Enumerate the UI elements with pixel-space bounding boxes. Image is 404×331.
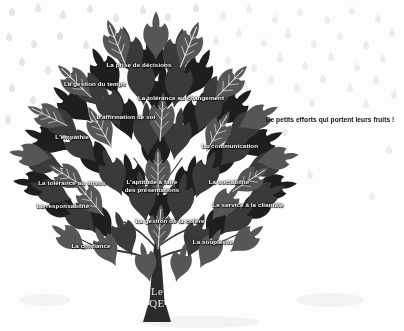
skill-label-affirmation-de-soi: L'affirmation de soi (97, 113, 156, 120)
skill-label-confiance: La confiance (71, 242, 110, 249)
tagline: De petits efforts qui portent leurs frui… (266, 116, 395, 123)
skill-label-gestion-du-temps: La gestion du temps (64, 80, 126, 87)
trunk-label: Le QE (149, 286, 164, 310)
skill-label-communication: La communication (202, 142, 258, 149)
skill-label-prise-de-decisions: La prise de décisions (106, 61, 171, 68)
skill-label-empathie: L'empathie (55, 133, 88, 140)
skill-label-responsabilite: La responsabilité (37, 202, 90, 209)
skill-label-tolerance-au-stress: La tolérance au stress (38, 179, 106, 186)
skill-label-aptitude-presentations: L'aptitude à faire des présentations (125, 178, 180, 193)
poster-canvas: La prise de décisions La gestion du temp… (0, 0, 404, 331)
skill-label-souplesse: La souplesse (193, 238, 233, 245)
skill-label-service-a-la-clientele: Le service à la clientèle (212, 201, 283, 208)
skill-label-tolerance-au-changement: La tolérance au changement (138, 94, 224, 101)
trunk-label-line2: QE (149, 298, 164, 310)
skill-labels: La prise de décisions La gestion du temp… (0, 0, 404, 331)
skill-label-gestion-de-la-colere: La gestion de la colère (135, 217, 204, 224)
skill-label-sociabilite: La sociabilité (209, 178, 250, 185)
